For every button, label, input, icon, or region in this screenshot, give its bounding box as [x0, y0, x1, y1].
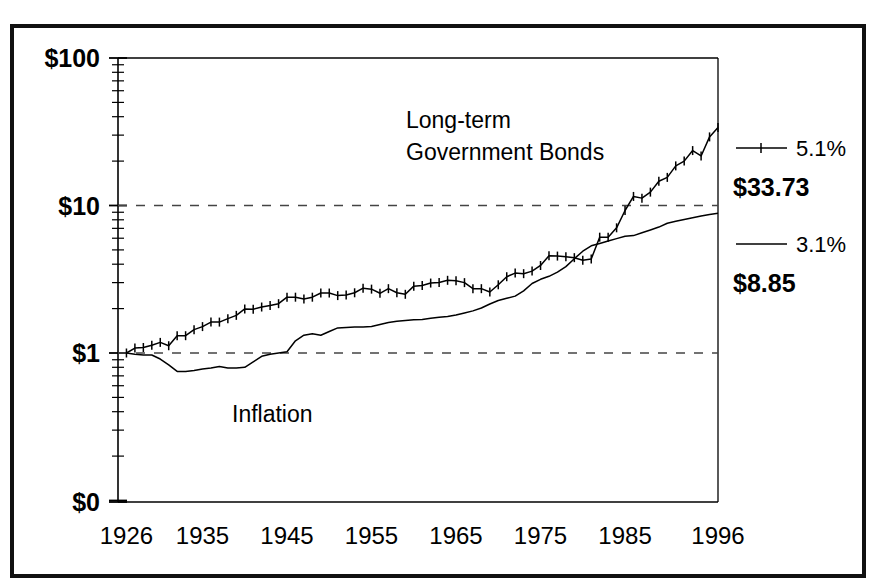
figure-container: $100$10$1$0 1926193519451955196519751985…: [0, 0, 875, 585]
x-tick-label: 1985: [598, 522, 651, 549]
y-tick-label: $1: [72, 339, 100, 367]
gridlines-layer: [118, 206, 718, 354]
legend-entry-inflation: 3.1% $8.85: [733, 232, 846, 297]
x-tick-label: 1945: [260, 522, 313, 549]
x-tick-labels: 19261935194519551965197519851996: [100, 522, 745, 549]
annotation-bonds-line1: Long-term: [406, 107, 511, 133]
y-tick-label: $10: [58, 192, 100, 220]
y-tick-label: $100: [44, 44, 100, 72]
legend-value-inflation: $8.85: [733, 269, 796, 297]
legend-value-bonds: $33.73: [733, 173, 809, 201]
x-tick-label: 1975: [514, 522, 567, 549]
x-tick-label: 1965: [429, 522, 482, 549]
x-tick-label: 1955: [345, 522, 398, 549]
annotation-bonds-line2: Government Bonds: [406, 139, 604, 165]
chart-legend: 5.1% $33.73 3.1% $8.85: [733, 136, 846, 297]
x-tick-label: 1935: [176, 522, 229, 549]
x-tick-label: 1926: [100, 522, 153, 549]
plot-annotations: Long-term Government Bonds Inflation: [232, 107, 604, 427]
legend-entry-bonds: 5.1% $33.73: [733, 136, 846, 201]
series-line: [126, 213, 718, 371]
chart-canvas: $100$10$1$0 1926193519451955196519751985…: [0, 0, 875, 585]
y-tick-label: $0: [72, 488, 100, 516]
legend-percent-bonds: 5.1%: [796, 136, 846, 161]
x-tick-label: 1996: [691, 522, 744, 549]
legend-percent-inflation: 3.1%: [796, 232, 846, 257]
annotation-inflation: Inflation: [232, 401, 313, 427]
y-tick-labels: $100$10$1$0: [44, 44, 100, 516]
series-inflation: [126, 213, 718, 371]
